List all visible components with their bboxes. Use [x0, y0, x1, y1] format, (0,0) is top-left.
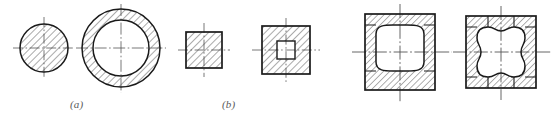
drawing-canvas: [0, 0, 553, 120]
technical-drawing-sheet: (a) (b): [0, 0, 553, 120]
tube-scalloped-hatch-fill: [0, 0, 553, 120]
figure-square-tube-scalloped: [0, 0, 553, 120]
